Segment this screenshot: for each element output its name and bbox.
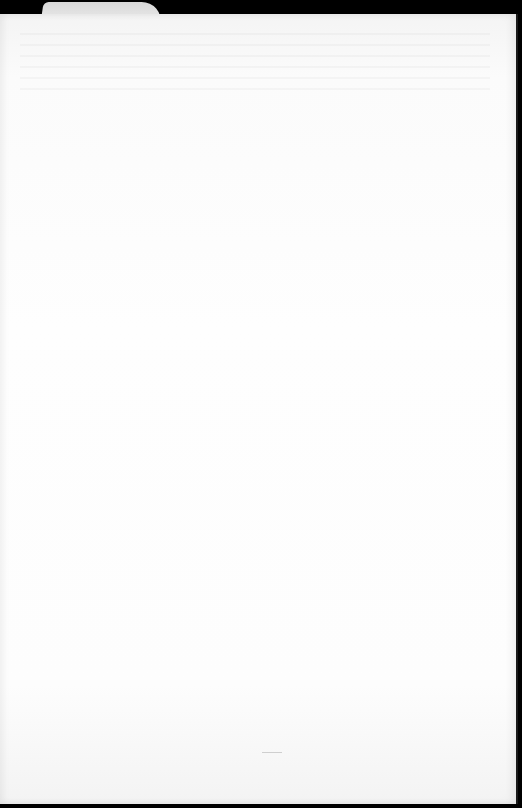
- sheet-edge: [516, 14, 518, 804]
- bleed-through-text: [20, 24, 490, 94]
- page-mark: [262, 752, 282, 753]
- paper-sheet: [0, 14, 518, 804]
